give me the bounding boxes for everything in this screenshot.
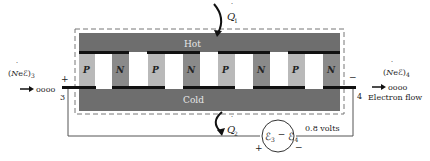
cold-label: Cold [183, 95, 204, 105]
leg-label: P [221, 65, 229, 75]
terminal-right-sign: − [349, 72, 357, 82]
leg-label: N [256, 65, 266, 75]
bottom-conductor [183, 86, 235, 89]
leg-label: N [186, 65, 196, 75]
leg-label: N [115, 65, 125, 75]
left-flux-dot: ˙ [15, 61, 19, 70]
q2-dot: ˙ [230, 115, 234, 124]
terminal-right-number: 4 [357, 92, 362, 101]
right-flux-dot: ˙ [390, 60, 394, 69]
electron-in-arrowhead-icon [29, 86, 34, 92]
right-flux-label: (Neℰ)4 [383, 68, 410, 78]
source-plus: + [255, 143, 263, 153]
top-conductor [288, 51, 340, 54]
voltage-label: 0.8 volts [305, 124, 339, 133]
leg-label: P [151, 65, 159, 75]
hot-slab [79, 33, 340, 52]
left-flux-label: (Neℰ)3 [8, 69, 35, 79]
bottom-conductor [62, 86, 96, 89]
bottom-conductor [112, 86, 165, 89]
top-conductor [218, 51, 270, 54]
leg-label: N [326, 65, 336, 75]
source-minus: − [295, 142, 303, 152]
top-conductor [147, 51, 200, 54]
top-conductor [79, 51, 129, 54]
terminal-left-number: 3 [60, 93, 65, 102]
q1-dot: ˙ [230, 2, 234, 11]
electron-out-arrowhead-icon [381, 84, 386, 90]
bottom-conductor [323, 86, 356, 89]
leg-label: P [291, 65, 299, 75]
electron-flow-label: Electron flow [368, 93, 422, 102]
thermoelectric-diagram: Hot P N P N P N P N Cold Q ˙ 1 Q ˙ 2 ℰ3 [0, 0, 430, 161]
hot-label: Hot [184, 39, 201, 49]
electrons-left: oooo [36, 85, 55, 94]
electrons-right: oooo [388, 83, 407, 92]
terminal-left-sign: + [61, 74, 69, 84]
bottom-conductor [253, 86, 305, 89]
q1-subscript: 1 [234, 17, 238, 24]
cold-slab [79, 89, 340, 111]
leg-label: P [82, 65, 90, 75]
